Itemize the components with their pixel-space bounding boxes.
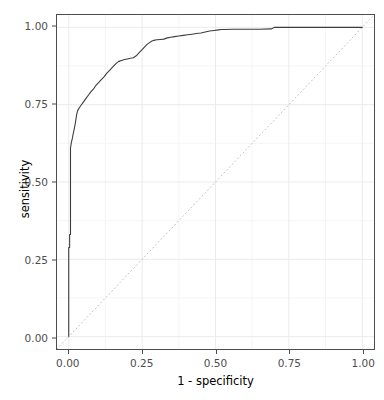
y-tick-mark — [52, 182, 56, 183]
y-tick-label: 0.00 — [0, 332, 48, 343]
roc-curve-figure: 0.000.250.500.751.00 0.000.250.500.751.0… — [0, 0, 384, 400]
x-axis-title: 1 - specificity — [56, 374, 375, 388]
y-axis-title: sensitivity — [18, 119, 32, 259]
x-tick-mark — [363, 350, 364, 354]
x-tick-mark — [216, 350, 217, 354]
plot-canvas — [57, 15, 374, 349]
y-tick-mark — [52, 104, 56, 105]
y-tick-mark — [52, 26, 56, 27]
figure-caption — [0, 394, 384, 400]
plot-panel — [56, 14, 375, 350]
x-tick-label: 0.00 — [38, 358, 98, 369]
x-tick-mark — [289, 350, 290, 354]
y-tick-label: 1.00 — [0, 21, 48, 32]
x-tick-label: 0.75 — [259, 358, 319, 369]
y-tick-mark — [52, 337, 56, 338]
y-tick-mark — [52, 259, 56, 260]
x-tick-label: 0.25 — [112, 358, 172, 369]
x-tick-label: 1.00 — [333, 358, 384, 369]
x-tick-mark — [142, 350, 143, 354]
x-tick-mark — [68, 350, 69, 354]
x-tick-label: 0.50 — [186, 358, 246, 369]
y-tick-label: 0.75 — [0, 99, 48, 110]
